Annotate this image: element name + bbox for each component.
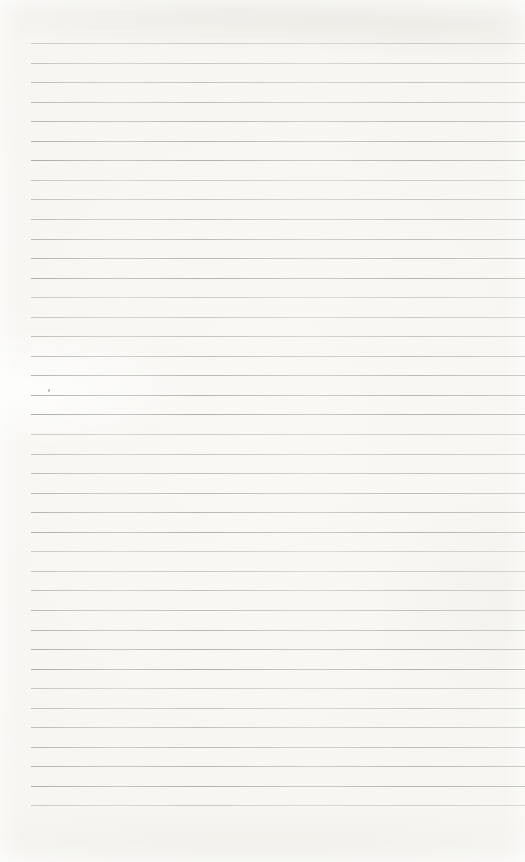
ruled-line bbox=[31, 708, 525, 709]
ruled-line bbox=[31, 63, 525, 64]
ruled-line bbox=[31, 473, 525, 474]
ruled-line bbox=[31, 747, 525, 748]
ruled-line bbox=[31, 766, 525, 767]
ruled-line bbox=[31, 512, 525, 513]
ruled-line bbox=[31, 219, 525, 220]
ruled-line bbox=[31, 278, 525, 279]
ruled-lines bbox=[0, 0, 525, 862]
ruled-line bbox=[31, 571, 525, 572]
ruled-line bbox=[31, 180, 525, 181]
ruled-line bbox=[31, 297, 525, 298]
ruled-line bbox=[31, 805, 525, 806]
ruled-line bbox=[31, 649, 525, 650]
ruled-line bbox=[31, 590, 525, 591]
ruled-line bbox=[31, 82, 525, 83]
ruled-line bbox=[31, 375, 525, 376]
ruled-line bbox=[31, 239, 525, 240]
ruled-line bbox=[31, 102, 525, 103]
ruled-line bbox=[31, 610, 525, 611]
notebook-page bbox=[0, 0, 525, 862]
ruled-line bbox=[31, 356, 525, 357]
ruled-line bbox=[31, 786, 525, 787]
ruled-line bbox=[31, 141, 525, 142]
ruled-line bbox=[31, 532, 525, 533]
ruled-line bbox=[31, 317, 525, 318]
ruled-line bbox=[31, 688, 525, 689]
dust-speck bbox=[48, 389, 50, 392]
ruled-line bbox=[31, 434, 525, 435]
ruled-line bbox=[31, 199, 525, 200]
ruled-line bbox=[31, 493, 525, 494]
ruled-line bbox=[31, 669, 525, 670]
ruled-line bbox=[31, 630, 525, 631]
ruled-line bbox=[31, 551, 525, 552]
ruled-line bbox=[31, 258, 525, 259]
ruled-line bbox=[31, 395, 525, 396]
ruled-line bbox=[31, 414, 525, 415]
ruled-line bbox=[31, 160, 525, 161]
ruled-line bbox=[31, 727, 525, 728]
ruled-line bbox=[31, 336, 525, 337]
ruled-line bbox=[31, 43, 525, 44]
ruled-line bbox=[31, 454, 525, 455]
ruled-line bbox=[31, 121, 525, 122]
